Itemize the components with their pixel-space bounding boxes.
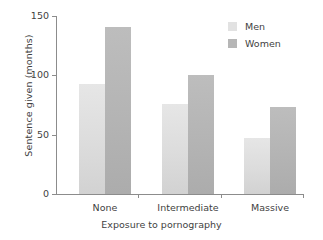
bar-men-intermediate [162, 104, 188, 194]
bar-women-none [105, 27, 131, 194]
x-tick-sep-2 [221, 194, 222, 198]
x-category-label-massive: Massive [251, 202, 289, 213]
x-category-label-intermediate: Intermediate [157, 202, 218, 213]
bar-men-none [79, 84, 105, 194]
y-axis-title: Sentence given (months) [23, 6, 34, 186]
x-category-label-none: None [93, 202, 118, 213]
legend-swatch-men-icon [228, 22, 237, 31]
y-tick-label-100: 100 [31, 69, 49, 80]
bar-men-massive [244, 138, 270, 194]
legend-item-women: Women [228, 35, 281, 52]
bar-women-massive [270, 107, 296, 194]
legend-swatch-women-icon [228, 39, 237, 48]
legend-label-women: Women [245, 38, 281, 49]
x-axis-title: Exposure to pornography [0, 219, 323, 230]
y-tick-label-50: 50 [37, 129, 49, 140]
bar-women-intermediate [188, 75, 214, 194]
x-tick-end [303, 194, 304, 198]
y-axis-line [56, 16, 57, 194]
x-tick-sep-1 [138, 194, 139, 198]
y-tick-label-0: 0 [43, 188, 49, 199]
legend-item-men: Men [228, 18, 281, 35]
x-axis-line [56, 194, 304, 195]
legend-label-men: Men [245, 21, 265, 32]
chart-legend: Men Women [228, 18, 281, 52]
y-tick-label-150: 150 [31, 10, 49, 21]
bar-chart-figure: Sentence given (months) 0 50 100 150 [0, 0, 323, 240]
